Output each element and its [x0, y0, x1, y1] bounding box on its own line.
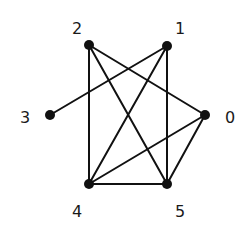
node-label-0: 0: [225, 108, 235, 127]
edge-0-4: [89, 115, 205, 184]
node-1: [162, 41, 172, 51]
node-label-5: 5: [175, 202, 185, 221]
node-2: [84, 40, 94, 50]
node-4: [84, 179, 94, 189]
node-3: [45, 110, 55, 120]
node-0: [200, 110, 210, 120]
graph-diagram: 012345: [0, 0, 252, 225]
node-label-3: 3: [20, 108, 30, 127]
node-5: [162, 179, 172, 189]
edges-group: [50, 45, 205, 184]
node-label-2: 2: [72, 19, 82, 38]
node-label-4: 4: [72, 202, 82, 221]
node-label-1: 1: [175, 19, 185, 38]
